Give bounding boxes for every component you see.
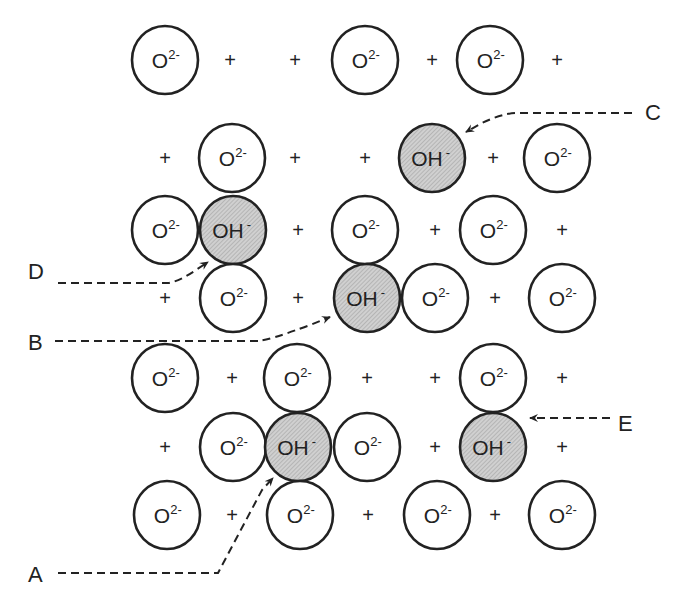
hydroxide-ion: OH-	[265, 413, 331, 481]
ion-charge: 2-	[300, 365, 312, 380]
ion-charge: 2-	[496, 217, 508, 232]
oxide-ion: O2-	[200, 413, 266, 481]
cation-plus: +	[159, 147, 171, 169]
ion-charge: 2-	[170, 502, 182, 517]
cation-plus: +	[556, 436, 568, 458]
cation-plus: +	[362, 504, 374, 526]
ion-charge: 2-	[236, 434, 248, 449]
ion-charge: -	[312, 434, 316, 449]
oxide-ion: O2-	[529, 481, 595, 549]
cation-plus: +	[289, 49, 301, 71]
ion-charge: 2-	[168, 217, 180, 232]
ion-charge: 2-	[235, 145, 247, 160]
cation-plus: +	[551, 49, 563, 71]
cation-plus: +	[226, 504, 238, 526]
cation-plus: +	[226, 367, 238, 389]
cation-plus: +	[361, 367, 373, 389]
ion-charge: 2-	[438, 285, 450, 300]
oxide-ion: O2-	[334, 413, 400, 481]
ion-symbol: OH	[472, 436, 504, 459]
callout-label: C	[645, 100, 661, 125]
oxide-ion: O2-	[199, 124, 265, 192]
ion-charge: 2-	[493, 47, 505, 62]
ion-symbol: O	[549, 504, 565, 527]
ion-charge: 2-	[565, 502, 577, 517]
ion-charge: -	[381, 285, 385, 300]
ion-symbol: O	[424, 504, 440, 527]
hydroxide-ion: OH-	[399, 124, 465, 192]
ion-charge: -	[247, 217, 251, 232]
ion-symbol: O	[477, 49, 493, 72]
ion-symbol: OH	[411, 147, 443, 170]
ion-charge: 2-	[168, 365, 180, 380]
hydroxide-ion: OH-	[334, 264, 400, 332]
ion-charge: 2-	[168, 47, 180, 62]
ion-symbol: O	[480, 219, 496, 242]
ion-charge: 2-	[368, 217, 380, 232]
ion-charge: 2-	[496, 365, 508, 380]
ion-symbol: O	[152, 219, 168, 242]
oxide-ion: O2-	[332, 196, 398, 264]
oxide-ion: O2-	[402, 264, 468, 332]
ion-symbol: OH	[346, 287, 378, 310]
oxide-ion: O2-	[134, 481, 200, 549]
ion-charge: 2-	[368, 47, 380, 62]
cation-plus: +	[487, 147, 499, 169]
ion-symbol: O	[354, 436, 370, 459]
ion-symbol: O	[220, 436, 236, 459]
cation-plus: +	[292, 287, 304, 309]
cation-plus: +	[429, 436, 441, 458]
cation-plus: +	[159, 287, 171, 309]
cation-plus: +	[556, 367, 568, 389]
oxide-ion: O2-	[132, 196, 198, 264]
cation-plus: +	[292, 219, 304, 241]
callout-label: E	[618, 411, 633, 436]
callout-e: E	[530, 411, 633, 436]
dashed-arrow	[55, 317, 330, 341]
cation-plus: +	[489, 504, 501, 526]
hydroxide-ion: OH-	[460, 413, 526, 481]
ion-layer: O2-++O2-+O2-++O2-++OH-+O2-O2-OH-+O2-+O2-…	[132, 26, 595, 549]
callout-d: D	[28, 259, 208, 284]
cation-plus: +	[489, 287, 501, 309]
ion-charge: 2-	[440, 502, 452, 517]
ion-charge: -	[507, 434, 511, 449]
callout-label: A	[28, 562, 43, 587]
oxide-ion: O2-	[524, 124, 590, 192]
ion-symbol: O	[152, 49, 168, 72]
oxide-ion: O2-	[267, 481, 333, 549]
ion-charge: -	[446, 145, 450, 160]
oxide-ion: O2-	[457, 26, 523, 94]
ion-symbol: O	[287, 504, 303, 527]
ion-charge: 2-	[303, 502, 315, 517]
cation-plus: +	[289, 147, 301, 169]
ion-symbol: O	[480, 367, 496, 390]
ion-symbol: O	[220, 287, 236, 310]
oxide-ion: O2-	[132, 344, 198, 412]
cation-plus: +	[159, 436, 171, 458]
ion-symbol: OH	[277, 436, 309, 459]
ion-lattice-diagram: O2-++O2-+O2-++O2-++OH-+O2-O2-OH-+O2-+O2-…	[0, 0, 683, 599]
dashed-arrow	[58, 262, 208, 283]
oxide-ion: O2-	[200, 264, 266, 332]
oxide-ion: O2-	[332, 26, 398, 94]
ion-symbol: OH	[212, 219, 244, 242]
hydroxide-ion: OH-	[200, 196, 266, 264]
oxide-ion: O2-	[460, 344, 526, 412]
oxide-ion: O2-	[264, 344, 330, 412]
oxide-ion: O2-	[404, 481, 470, 549]
cation-plus: +	[426, 49, 438, 71]
ion-charge: 2-	[370, 434, 382, 449]
ion-charge: 2-	[565, 285, 577, 300]
ion-symbol: O	[422, 287, 438, 310]
ion-symbol: O	[549, 287, 565, 310]
cation-plus: +	[359, 147, 371, 169]
ion-charge: 2-	[236, 285, 248, 300]
ion-symbol: O	[284, 367, 300, 390]
oxide-ion: O2-	[460, 196, 526, 264]
cation-plus: +	[429, 367, 441, 389]
callout-label: B	[28, 330, 43, 355]
cation-plus: +	[224, 49, 236, 71]
ion-symbol: O	[152, 367, 168, 390]
oxide-ion: O2-	[529, 264, 595, 332]
